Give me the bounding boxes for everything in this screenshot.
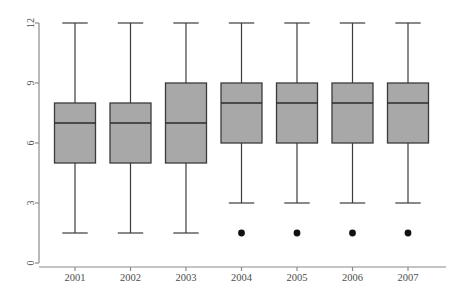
y-tick-label: 0 bbox=[25, 261, 36, 266]
y-tick-label: 3 bbox=[25, 201, 36, 206]
x-tick-label-2007: 2007 bbox=[398, 272, 419, 283]
y-tick-label: 9 bbox=[25, 81, 36, 86]
box-iqr bbox=[221, 83, 262, 143]
box-group-2007 bbox=[388, 23, 429, 236]
x-tick-label-group: 2001200220032004200520062007 bbox=[65, 272, 419, 283]
x-tick-label-2003: 2003 bbox=[176, 272, 197, 283]
box-iqr bbox=[110, 103, 151, 163]
x-tick-label-2006: 2006 bbox=[342, 272, 363, 283]
box-group-2001 bbox=[55, 23, 96, 233]
x-tick-label-2005: 2005 bbox=[287, 272, 308, 283]
x-tick-label-2001: 2001 bbox=[65, 272, 86, 283]
y-tick-label: 12 bbox=[25, 18, 36, 28]
box-group-2004 bbox=[221, 23, 262, 236]
outlier-point bbox=[238, 230, 245, 237]
outlier-point bbox=[349, 230, 356, 237]
y-axis: 036912 bbox=[25, 18, 40, 266]
outlier-point bbox=[405, 230, 412, 237]
outlier-point bbox=[294, 230, 301, 237]
box-iqr bbox=[332, 83, 373, 143]
box-group-2002 bbox=[110, 23, 151, 233]
x-tick-label-2004: 2004 bbox=[231, 272, 253, 283]
box-series-group bbox=[55, 23, 429, 236]
box-group-2005 bbox=[277, 23, 318, 236]
boxplot-figure: 036912 2001200220032004200520062007 bbox=[0, 0, 452, 296]
box-group-2006 bbox=[332, 23, 373, 236]
box-iqr bbox=[55, 103, 96, 163]
box-iqr bbox=[388, 83, 429, 143]
y-tick-label: 6 bbox=[25, 141, 36, 146]
box-iqr bbox=[277, 83, 318, 143]
boxplot-canvas: 036912 2001200220032004200520062007 bbox=[0, 0, 452, 296]
box-group-2003 bbox=[166, 23, 207, 233]
x-tick-label-2002: 2002 bbox=[120, 272, 141, 283]
x-axis bbox=[39, 267, 446, 271]
